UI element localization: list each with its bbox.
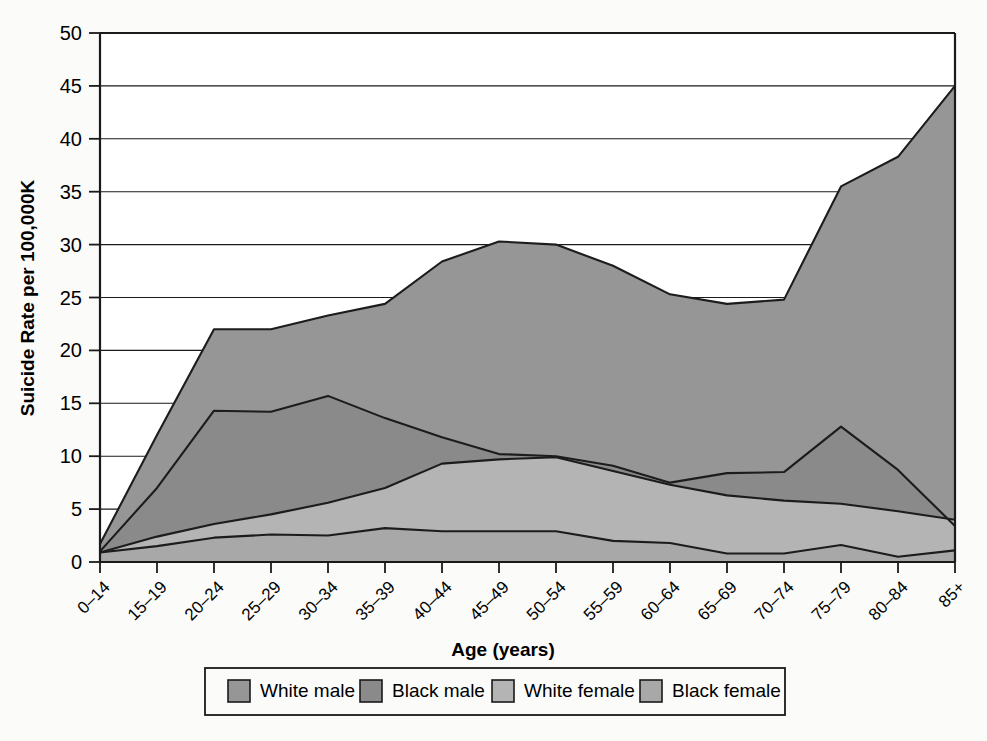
y-tick-label-25: 25	[60, 287, 82, 309]
y-tick-label-45: 45	[60, 75, 82, 97]
y-tick-label-40: 40	[60, 128, 82, 150]
legend-label-white-male: White male	[260, 680, 355, 701]
y-tick-label-15: 15	[60, 392, 82, 414]
chart-canvas: 05101520253035404550 0–1415–1920–2425–29…	[0, 0, 987, 741]
y-tick-label-30: 30	[60, 234, 82, 256]
x-axis-title: Age (years)	[451, 639, 555, 660]
legend-swatch-black-male	[360, 680, 382, 702]
y-tick-label-50: 50	[60, 22, 82, 44]
legend-swatch-black-female	[640, 680, 662, 702]
legend-entries: White maleBlack maleWhite femaleBlack fe…	[228, 680, 781, 702]
legend-label-black-male: Black male	[392, 680, 485, 701]
y-tick-label-5: 5	[71, 498, 82, 520]
chart-legend: White maleBlack maleWhite femaleBlack fe…	[205, 668, 785, 715]
legend-swatch-white-male	[228, 680, 250, 702]
y-tick-label-20: 20	[60, 339, 82, 361]
suicide-rate-area-chart: 05101520253035404550 0–1415–1920–2425–29…	[0, 0, 987, 741]
legend-swatch-white-female	[492, 680, 514, 702]
y-tick-label-35: 35	[60, 181, 82, 203]
y-tick-label-0: 0	[71, 551, 82, 573]
legend-label-black-female: Black female	[672, 680, 781, 701]
legend-label-white-female: White female	[524, 680, 635, 701]
y-axis-title: Suicide Rate per 100,000K	[17, 179, 38, 416]
y-tick-label-10: 10	[60, 445, 82, 467]
